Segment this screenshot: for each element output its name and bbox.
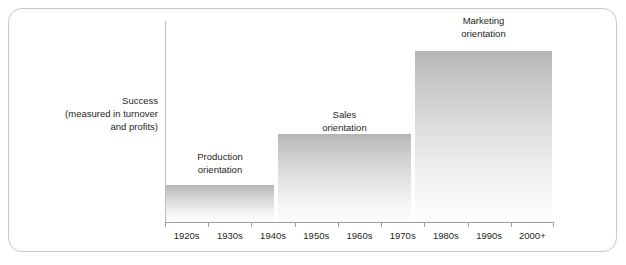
x-axis-tick-label: 1950s (295, 223, 338, 241)
x-axis-tick-mark (251, 223, 252, 227)
x-axis-tick-label: 1960s (338, 223, 381, 241)
x-axis-tick-label: 1920s (165, 223, 208, 241)
x-axis-tick: 2000+ (511, 223, 554, 245)
x-axis-tick-mark (381, 223, 382, 227)
bar-production-orientation (166, 185, 274, 222)
x-axis-tick-label: 1930s (208, 223, 251, 241)
x-axis-tick: 1920s (165, 223, 208, 245)
x-axis-tick-labels: 1920s1930s1940s1950s1960s1970s1980s1990s… (165, 223, 554, 245)
x-axis-tick-label: 1970s (381, 223, 424, 241)
bar-sales-orientation (278, 134, 411, 222)
x-axis-tick-mark (553, 223, 554, 227)
x-axis-tick: 1940s (251, 223, 294, 245)
x-axis-tick-mark (511, 223, 512, 227)
x-axis-tick: 1960s (338, 223, 381, 245)
bar-label-sales-line-2: orientation (278, 121, 411, 134)
chart-figure: Success (measured in turnover and profit… (0, 0, 626, 265)
x-axis-tick: 1980s (424, 223, 467, 245)
bar-label-marketing-line-2: orientation (415, 27, 552, 40)
bar-label-marketing: Marketing orientation (415, 14, 552, 40)
bar-label-sales: Sales orientation (278, 108, 411, 134)
x-axis-tick: 1950s (295, 223, 338, 245)
bar-marketing-orientation (415, 51, 552, 222)
x-axis-tick-label: 1940s (251, 223, 294, 241)
x-axis-tick-label: 1980s (424, 223, 467, 241)
x-axis-tick: 1970s (381, 223, 424, 245)
x-axis-tick-mark (165, 223, 166, 227)
x-axis-tick: 1930s (208, 223, 251, 245)
bar-label-marketing-line-1: Marketing (415, 14, 552, 27)
bar-label-production-line-1: Production (166, 150, 274, 163)
x-axis-tick-mark (295, 223, 296, 227)
x-axis-tick-mark (424, 223, 425, 227)
x-axis-tick-mark (468, 223, 469, 227)
x-axis-tick: 1990s (468, 223, 511, 245)
x-axis-tick-mark (208, 223, 209, 227)
x-axis-tick-label: 1990s (468, 223, 511, 241)
x-axis-tick-label: 2000+ (511, 223, 554, 241)
bar-label-production: Production orientation (166, 150, 274, 176)
bar-label-sales-line-1: Sales (278, 108, 411, 121)
bar-label-production-line-2: orientation (166, 163, 274, 176)
plot-area: Success (measured in turnover and profit… (0, 0, 626, 265)
x-axis-tick-mark (338, 223, 339, 227)
